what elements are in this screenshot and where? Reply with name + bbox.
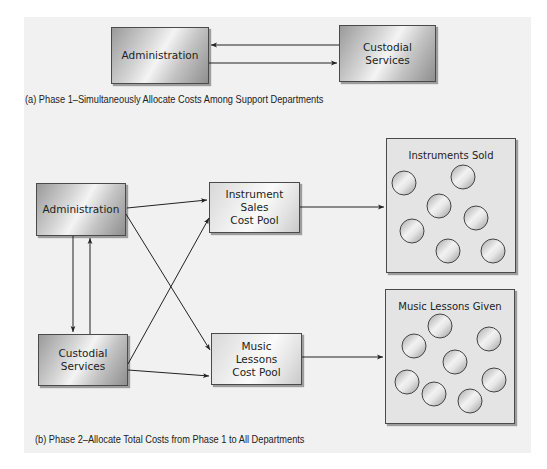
unit-circle-icon [427, 194, 451, 218]
arrow-custodial-to-instrument-pool [128, 218, 209, 364]
arrow-admin-to-lessons-pool [126, 214, 210, 350]
unit-circle-icon [422, 382, 446, 406]
connector-layer [0, 0, 547, 469]
unit-circle-icon [392, 171, 416, 195]
arrow-admin-to-instrument-pool [127, 200, 207, 208]
arrow-custodial-to-lessons-pool [128, 370, 209, 376]
lessons-given-units [395, 314, 506, 413]
instruments-sold-units [392, 165, 505, 263]
unit-circle-icon [400, 219, 424, 243]
unit-circle-icon [482, 368, 506, 392]
unit-circle-icon [481, 239, 505, 263]
cost-allocation-diagram: Administration Custodial Services (a) Ph… [0, 0, 547, 469]
unit-circle-icon [395, 370, 419, 394]
unit-circle-icon [464, 206, 488, 230]
unit-circle-icon [451, 165, 475, 189]
unit-circle-icon [458, 389, 482, 413]
unit-circle-icon [402, 334, 426, 358]
unit-circle-icon [436, 239, 460, 263]
unit-circle-icon [477, 327, 501, 351]
unit-circle-icon [428, 314, 452, 338]
unit-circle-icon [443, 350, 467, 374]
